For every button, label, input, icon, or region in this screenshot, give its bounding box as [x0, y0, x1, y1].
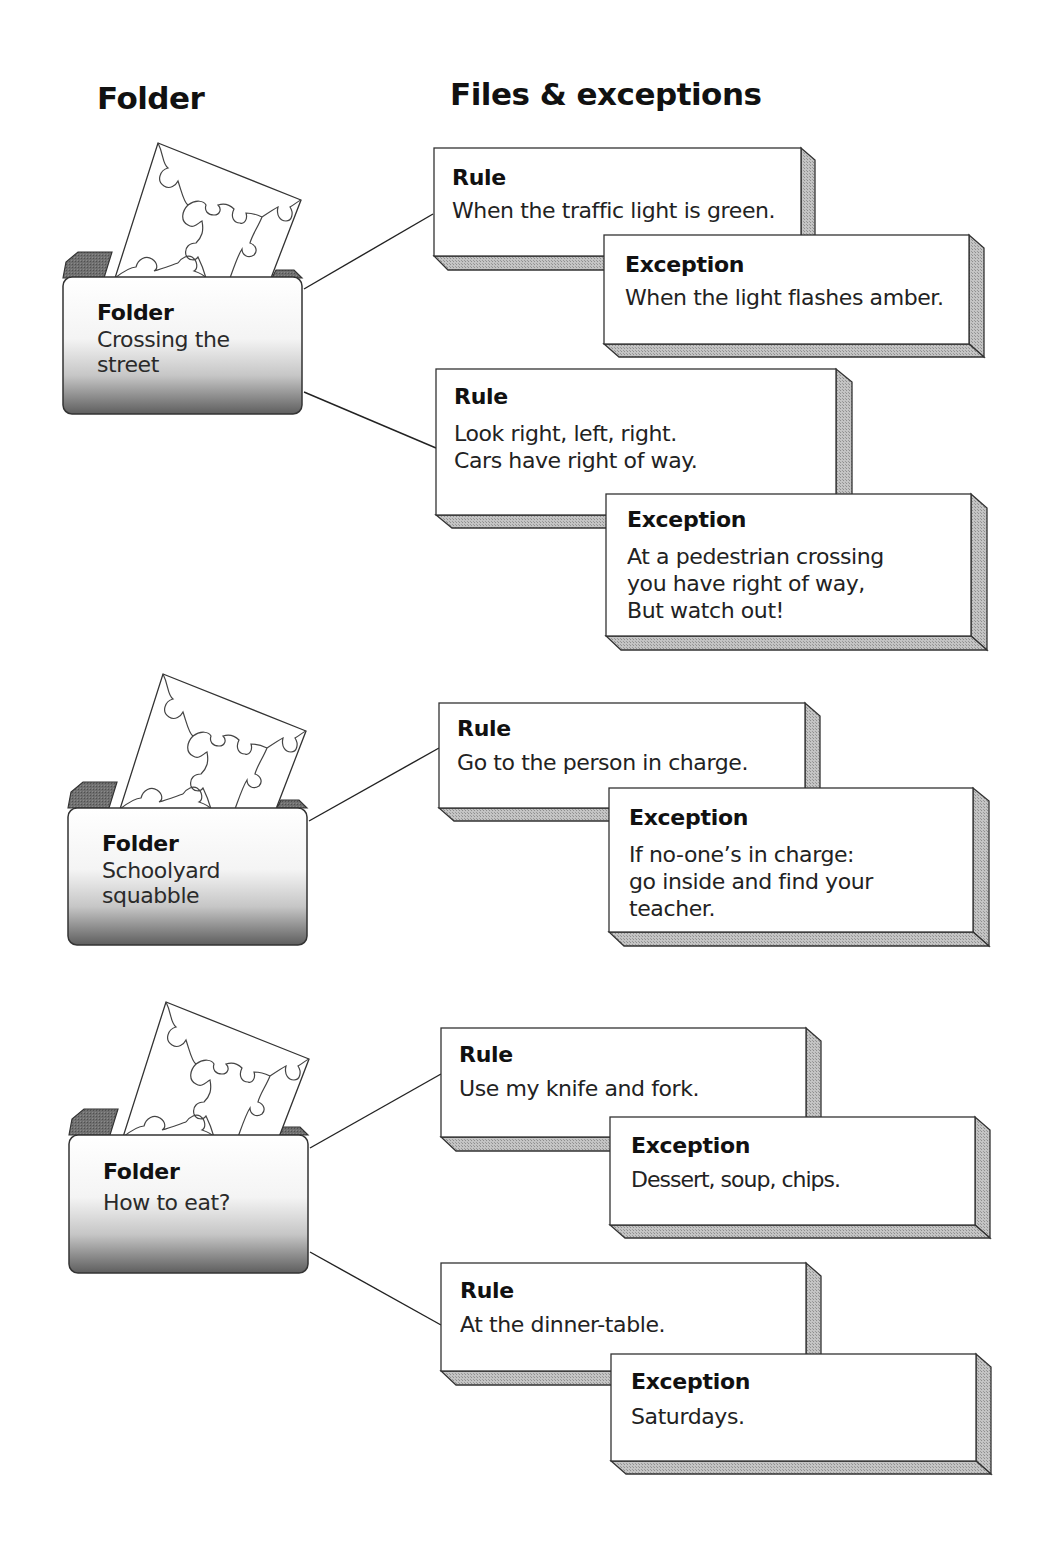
folder-card-1[interactable]: Folder Crossing the street — [97, 299, 230, 377]
exception-text: If no-one’s in charge: go inside and fin… — [629, 841, 969, 922]
rule-text: Use my knife and fork. — [459, 1076, 799, 1101]
folder-label: Folder — [102, 830, 220, 858]
rule-text: At the dinner-table. — [460, 1312, 800, 1337]
rule-card-3-1[interactable]: Rule Use my knife and fork. — [459, 1042, 799, 1101]
exception-card-3-1[interactable]: Exception Dessert, soup, chips. — [631, 1133, 971, 1192]
exception-label: Exception — [625, 252, 965, 278]
rule-label: Rule — [459, 1042, 799, 1068]
exception-text: At a pedestrian crossing you have right … — [627, 543, 967, 624]
exception-label: Exception — [629, 805, 969, 831]
exception-card-3-2[interactable]: Exception Saturdays. — [631, 1369, 971, 1429]
exception-card-1-2[interactable]: Exception At a pedestrian crossing you h… — [627, 507, 967, 624]
folder-title: Crossing the street — [97, 327, 230, 377]
rule-label: Rule — [454, 384, 829, 410]
exception-label: Exception — [627, 507, 967, 533]
exception-text: When the light flashes amber. — [625, 285, 965, 310]
folder-title: Schoolyard squabble — [102, 858, 220, 908]
rule-label: Rule — [452, 165, 797, 191]
connector-folder2-rule1 — [309, 748, 439, 821]
exception-card-2-1[interactable]: Exception If no-one’s in charge: go insi… — [629, 805, 969, 922]
folder-3-graphic — [69, 1002, 309, 1273]
connector-folder1-rule2 — [304, 392, 436, 448]
exception-text: Dessert, soup, chips. — [631, 1167, 971, 1192]
rule-card-1-2[interactable]: Rule Look right, left, right. Cars have … — [454, 384, 829, 474]
exception-text: Saturdays. — [631, 1404, 971, 1429]
rule-card-2-1[interactable]: Rule Go to the person in charge. — [457, 716, 797, 775]
folder-label: Folder — [97, 299, 230, 327]
exception-label: Exception — [631, 1369, 971, 1395]
rule-text: Go to the person in charge. — [457, 750, 797, 775]
folder-card-3[interactable]: Folder How to eat? — [103, 1158, 230, 1215]
folder-back-tab — [63, 252, 112, 278]
folder-label: Folder — [103, 1158, 230, 1186]
connector-folder3-rule2 — [310, 1252, 441, 1325]
folder-card-2[interactable]: Folder Schoolyard squabble — [102, 830, 220, 908]
rule-card-3-2[interactable]: Rule At the dinner-table. — [460, 1278, 800, 1337]
rule-text: When the traffic light is green. — [452, 198, 797, 223]
rule-label: Rule — [460, 1278, 800, 1304]
connector-folder1-rule1 — [304, 214, 433, 289]
rule-label: Rule — [457, 716, 797, 742]
exception-label: Exception — [631, 1133, 971, 1159]
exception-card-1-1[interactable]: Exception When the light flashes amber. — [625, 252, 965, 310]
rule-text: Look right, left, right. Cars have right… — [454, 420, 829, 474]
folder-title: How to eat? — [103, 1190, 230, 1215]
connector-lines — [304, 214, 441, 1325]
rule-card-1-1[interactable]: Rule When the traffic light is green. — [452, 165, 797, 223]
connector-folder3-rule1 — [310, 1074, 441, 1148]
